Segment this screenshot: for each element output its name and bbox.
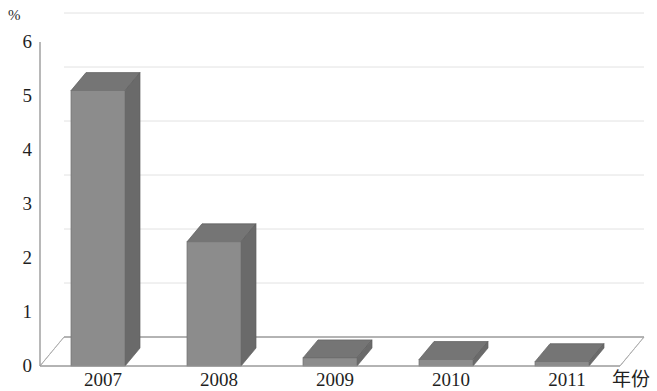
chart-plot-area [0,0,657,391]
bar-2008 [187,224,256,366]
bar-2007 [71,73,140,366]
bar-chart-figure: % 0123456 20072008200920102011 年份 [0,0,657,391]
